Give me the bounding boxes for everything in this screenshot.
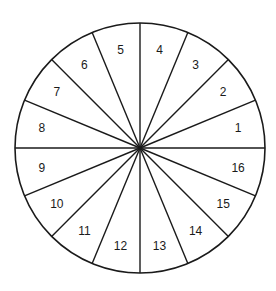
sector-label-9: 9 [39, 161, 46, 175]
sector-label-13: 13 [153, 239, 167, 253]
sector-label-11: 11 [78, 224, 91, 238]
sector-label-3: 3 [192, 58, 199, 72]
sector-label-15: 15 [216, 197, 230, 211]
sector-label-14: 14 [189, 224, 203, 238]
spokes [15, 23, 265, 273]
sector-label-5: 5 [117, 43, 124, 57]
sector-label-6: 6 [81, 58, 88, 72]
sector-wheel: 12345678910111213141516 [0, 0, 276, 291]
sector-label-4: 4 [156, 43, 163, 57]
sector-label-8: 8 [39, 121, 46, 135]
sector-label-10: 10 [50, 197, 64, 211]
sector-label-1: 1 [235, 121, 242, 135]
sector-label-16: 16 [231, 161, 245, 175]
sector-label-12: 12 [114, 239, 128, 253]
sector-label-2: 2 [220, 85, 227, 99]
sector-label-7: 7 [54, 85, 61, 99]
